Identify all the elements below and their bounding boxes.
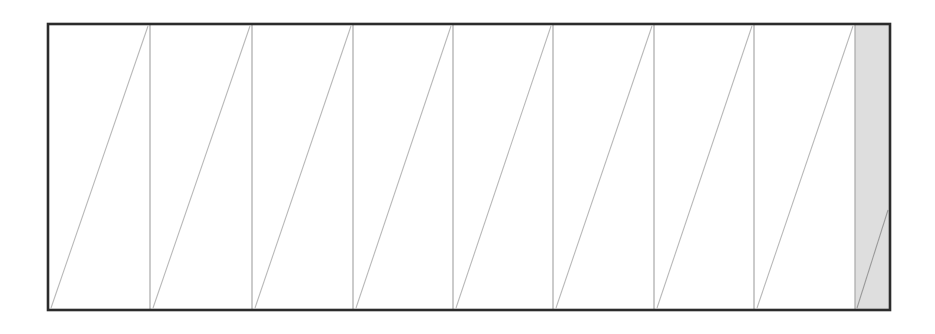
figure-root [0,0,935,334]
sawtooth-ramp-diagram [0,0,935,334]
shaded-final-cell [855,25,889,309]
highlight-fill [855,25,889,309]
